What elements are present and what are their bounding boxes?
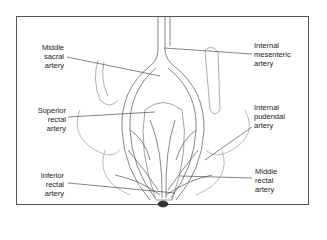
label-line: Internal	[254, 41, 306, 50]
label-middle-rectal-artery: Middle rectal artery	[255, 167, 295, 194]
label-line: rectal	[26, 115, 66, 124]
label-line: Middle	[255, 167, 295, 176]
label-line: artery	[26, 61, 64, 70]
label-line: rectal	[255, 176, 295, 185]
label-line: sacral	[26, 52, 64, 61]
label-line: Inferior	[26, 171, 64, 180]
label-line: pudendal	[254, 112, 304, 121]
label-line: Internal	[254, 103, 304, 112]
label-line: Superior	[26, 106, 66, 115]
label-line: artery	[254, 59, 306, 68]
label-internal-mesenteric-artery: Internal mesenteric artery	[254, 41, 306, 68]
label-superior-rectal-artery: Superior rectal artery	[26, 106, 66, 133]
label-internal-pudendal-artery: Internal pudendal artery	[254, 103, 304, 130]
label-line: artery	[255, 185, 295, 194]
label-line: mesenteric	[254, 50, 306, 59]
label-line: artery	[26, 189, 64, 198]
label-line: artery	[254, 121, 304, 130]
label-line: artery	[26, 124, 66, 133]
label-line: rectal	[26, 180, 64, 189]
label-inferior-rectal-artery: Inferior rectal artery	[26, 171, 64, 198]
label-middle-sacral-artery: Middle sacral artery	[26, 43, 64, 70]
label-line: Middle	[26, 43, 64, 52]
